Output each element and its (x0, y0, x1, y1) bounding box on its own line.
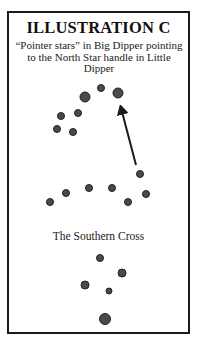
star-chart (0, 0, 197, 345)
big-dipper-star-icon (113, 88, 123, 98)
little-dipper-star-icon (143, 191, 150, 198)
southern-cross-star-icon (81, 281, 89, 289)
little-dipper-star-icon (125, 199, 132, 206)
big-dipper-star-icon (75, 110, 82, 117)
southern-cross-star-icon (97, 255, 104, 262)
little-dipper-star-icon (63, 190, 70, 197)
southern-cross-constellation (81, 255, 126, 325)
little-dipper-star-icon (137, 171, 144, 178)
big-dipper-constellation (54, 85, 124, 136)
little-dipper-constellation (47, 171, 150, 206)
little-dipper-star-icon (109, 185, 116, 192)
big-dipper-star-icon (58, 113, 65, 120)
big-dipper-star-icon (70, 129, 77, 136)
little-dipper-star-icon (86, 185, 93, 192)
southern-cross-star-icon (106, 288, 112, 294)
southern-cross-label: The Southern Cross (0, 230, 197, 242)
big-dipper-star-icon (80, 92, 90, 102)
southern-cross-star-icon (100, 314, 111, 325)
pointer-arrow-icon (122, 113, 136, 165)
southern-cross-star-icon (118, 269, 126, 277)
little-dipper-star-icon (47, 199, 54, 206)
big-dipper-star-icon (54, 126, 61, 133)
big-dipper-star-icon (98, 85, 105, 92)
